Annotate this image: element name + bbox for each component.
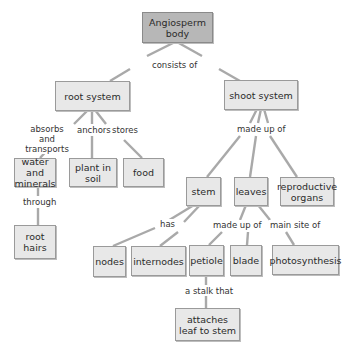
- link-absorbs-and-transports: absorbs and transports: [22, 124, 72, 154]
- node-plant-in-soil: plant in soil: [69, 158, 117, 187]
- node-petiole: petiole: [189, 245, 224, 276]
- node-internodes: internodes: [131, 246, 186, 276]
- node-angiosperm-body: Angiosperm body: [142, 12, 213, 43]
- link-a-stalk-that: a stalk that: [184, 286, 234, 296]
- node-root-hairs: root hairs: [14, 225, 56, 259]
- node-reproductive-organs: reproductive organs: [280, 177, 334, 206]
- link-has: has: [159, 219, 176, 229]
- node-photosynthesis: photosynthesis: [272, 245, 339, 275]
- link-through: through: [22, 197, 57, 207]
- node-shoot-system: shoot system: [224, 80, 298, 110]
- link-main-site-of: main site of: [269, 220, 321, 230]
- node-food: food: [123, 158, 164, 187]
- link-anchors: anchors: [76, 125, 112, 135]
- node-attaches-leaf-to-stem: attaches leaf to stem: [175, 308, 240, 341]
- node-water-and-minerals: water and minerals: [14, 158, 56, 187]
- node-stem: stem: [186, 177, 221, 206]
- link-stores: stores: [111, 125, 139, 135]
- link-consists-of: consists of: [151, 60, 198, 70]
- link-made-up-of-leaves: made up of: [212, 220, 263, 230]
- link-made-up-of-shoot: made up of: [236, 124, 287, 134]
- concept-map: Angiosperm body root system shoot system…: [0, 0, 350, 353]
- node-leaves: leaves: [234, 177, 268, 206]
- node-blade: blade: [230, 245, 262, 276]
- node-root-system: root system: [55, 81, 130, 111]
- node-nodes: nodes: [93, 246, 126, 277]
